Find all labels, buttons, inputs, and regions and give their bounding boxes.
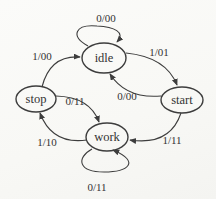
transition-work-to-stop: 1/10: [37, 113, 87, 148]
state-stop: stop: [16, 86, 56, 112]
state-label: start: [171, 93, 193, 107]
transition-label: 0/11: [87, 181, 106, 193]
transition-label: 1/01: [149, 46, 169, 58]
state-label: work: [94, 130, 120, 144]
transition-work-to-work: 0/11: [82, 149, 129, 193]
transition-label: 1/00: [32, 50, 52, 62]
transition-label: 0/11: [65, 95, 84, 107]
transition-start-to-idle: 0/00: [110, 74, 161, 102]
transition-label: 0/00: [96, 12, 116, 24]
transition-start-to-work: 1/11: [130, 113, 182, 146]
transition-stop-to-work: 0/11: [56, 95, 99, 122]
state-label: idle: [95, 51, 114, 65]
state-idle: idle: [82, 43, 126, 73]
transition-label: 1/10: [37, 136, 57, 148]
state-label: stop: [26, 92, 47, 106]
state-start: start: [161, 87, 203, 113]
transition-label: 0/00: [117, 90, 137, 102]
state-work: work: [86, 123, 128, 151]
transition-idle-to-idle: 0/00: [77, 12, 120, 46]
figure-canvas: 0/001/001/010/000/111/101/110/11 idlesto…: [0, 0, 216, 199]
state-diagram: 0/001/001/010/000/111/101/110/11 idlesto…: [0, 0, 216, 199]
transition-stop-to-idle: 1/00: [32, 50, 80, 87]
transition-idle-to-start: 1/01: [126, 46, 177, 85]
transition-edge: [82, 149, 129, 172]
transition-label: 1/11: [162, 134, 181, 146]
